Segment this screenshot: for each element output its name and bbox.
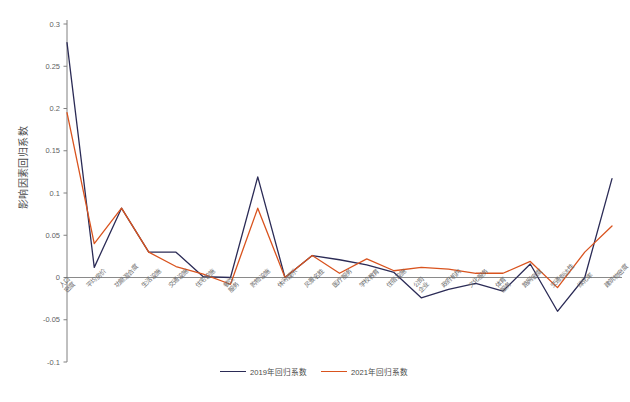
legend-label-2021: 2021年回归系数 [351, 366, 408, 377]
chart-legend: 2019年回归系数 2021年回归系数 [0, 366, 628, 377]
legend-entry-2021[interactable]: 2021年回归系数 [321, 366, 408, 377]
legend-entry-2019[interactable]: 2019年回归系数 [220, 366, 307, 377]
legend-swatch-2021 [321, 371, 347, 373]
axis-lines [64, 20, 623, 362]
series-line-2021 [67, 113, 612, 288]
series-lines [67, 43, 612, 312]
legend-label-2019: 2019年回归系数 [250, 366, 307, 377]
series-line-2019 [67, 43, 612, 312]
legend-swatch-2019 [220, 371, 246, 373]
